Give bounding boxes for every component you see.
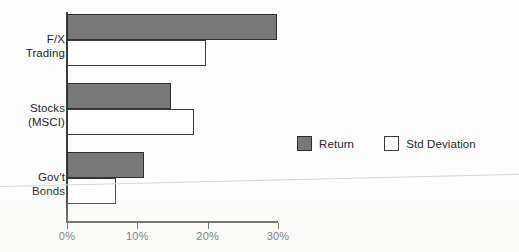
- x-axis-tick: [278, 223, 279, 229]
- x-axis-tick-label: 30%: [258, 230, 298, 243]
- bar-std-deviation: [67, 178, 116, 204]
- legend-item-return: Return: [297, 136, 354, 151]
- x-axis-tick-label: 0%: [47, 230, 87, 243]
- x-axis-tick: [67, 223, 68, 229]
- category-label-line: Gov't: [0, 170, 65, 184]
- category-label-line: (MSCI): [0, 115, 65, 129]
- bar-return: [67, 152, 144, 178]
- category-label: F/XTrading: [0, 32, 65, 60]
- bar-std-deviation: [67, 40, 206, 66]
- category-label-line: Stocks: [0, 101, 65, 115]
- legend-swatch-std-deviation-icon: [384, 136, 399, 151]
- category-label: Stocks(MSCI): [0, 101, 65, 129]
- bar-chart: 0%10%20%30% F/XTradingStocks(MSCI)Gov'tB…: [0, 0, 519, 252]
- legend-item-std-deviation: Std Deviation: [384, 136, 476, 151]
- category-label-line: F/X: [0, 32, 65, 46]
- x-axis-tick-label: 20%: [188, 230, 228, 243]
- bar-std-deviation: [67, 109, 194, 135]
- x-axis-line: [66, 221, 278, 223]
- x-axis-tick-label: 10%: [117, 230, 157, 243]
- legend-label-std-deviation: Std Deviation: [406, 138, 476, 150]
- category-label-line: Bonds: [0, 184, 65, 198]
- bar-return: [67, 83, 171, 109]
- legend-swatch-return-icon: [297, 136, 312, 151]
- category-label: Gov'tBonds: [0, 170, 65, 198]
- x-axis-tick: [137, 223, 138, 229]
- bar-return: [67, 14, 277, 40]
- x-axis-tick: [208, 223, 209, 229]
- chart-legend: Return Std Deviation: [297, 136, 476, 151]
- category-label-line: Trading: [0, 46, 65, 60]
- legend-label-return: Return: [319, 138, 354, 150]
